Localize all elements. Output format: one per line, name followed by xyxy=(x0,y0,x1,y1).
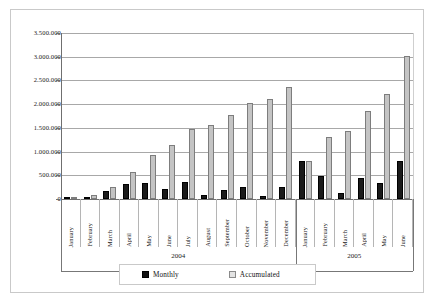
legend-label-accumulated: Accumulated xyxy=(240,271,280,279)
bar-group xyxy=(237,33,257,199)
x-axis-category-cell: February xyxy=(81,199,101,247)
x-axis-category-cell: January xyxy=(61,199,81,247)
x-axis-category-cell: March xyxy=(100,199,120,247)
x-axis-category-cell: November xyxy=(257,199,277,247)
bar-chart: 3.500.0003.000.0002.500.0002.000.0001.50… xyxy=(0,0,436,306)
bar-monthly xyxy=(240,187,246,199)
y-axis-tick-label: 1.000.000 xyxy=(5,148,61,155)
x-axis-tick-label: November xyxy=(262,219,269,247)
bar-accumulated xyxy=(208,125,214,199)
bar-accumulated xyxy=(189,129,195,199)
bar-group xyxy=(296,33,316,199)
legend-item-monthly: Monthly xyxy=(142,271,179,279)
y-axis-tick-label: 0 xyxy=(5,195,61,202)
bar-group xyxy=(198,33,218,199)
x-axis-tick-label: July xyxy=(184,235,191,247)
x-axis-tick-label: September xyxy=(223,218,230,247)
x-axis-category-cell: September xyxy=(217,199,237,247)
x-axis-category-cell: June xyxy=(393,199,413,247)
y-axis-tick-label: 3.000.000 xyxy=(5,53,61,60)
bar-group xyxy=(159,33,179,199)
bar-group xyxy=(120,33,140,199)
x-axis-tick-label: August xyxy=(204,227,211,247)
legend-item-accumulated: Accumulated xyxy=(229,271,280,279)
year-band-start-line xyxy=(61,199,62,271)
year-group-label: 2004 xyxy=(61,252,296,260)
bar-accumulated xyxy=(404,56,410,199)
bar-monthly xyxy=(103,191,109,199)
x-axis-tick-label: February xyxy=(321,222,328,247)
x-axis-tick-label: January xyxy=(301,226,308,247)
x-axis-category-cell: February xyxy=(315,199,335,247)
bar-monthly xyxy=(377,183,383,199)
bar-monthly xyxy=(397,161,403,199)
bar-accumulated xyxy=(267,99,273,199)
x-axis-category-cell: October xyxy=(237,199,257,247)
y-axis-tick-mark xyxy=(56,80,60,81)
year-group-label: 2005 xyxy=(296,252,413,260)
x-axis-tick-label: April xyxy=(125,232,132,247)
x-axis-tick-label: May xyxy=(380,234,387,247)
x-axis-tick-label: December xyxy=(282,219,289,247)
y-axis-line xyxy=(61,33,62,199)
bar-accumulated xyxy=(110,187,116,199)
bar-group xyxy=(61,33,81,199)
legend-label-monthly: Monthly xyxy=(153,271,179,279)
x-axis-tick-label: February xyxy=(86,222,93,247)
bar-monthly xyxy=(358,178,364,199)
bar-accumulated xyxy=(247,103,253,199)
bar-accumulated xyxy=(326,137,332,199)
bar-monthly xyxy=(299,161,305,199)
bar-group xyxy=(81,33,101,199)
x-axis-category-cell: May xyxy=(374,199,394,247)
x-axis-category-cell: January xyxy=(296,199,316,247)
x-axis-category-cell: April xyxy=(120,199,140,247)
y-axis-tick-mark xyxy=(56,175,60,176)
bar-accumulated xyxy=(286,87,292,199)
bar-monthly xyxy=(142,183,148,199)
year-band-end-line xyxy=(413,199,414,271)
chart-legend: Monthly Accumulated xyxy=(119,264,316,285)
year-separator xyxy=(296,199,297,271)
bar-monthly xyxy=(318,176,324,199)
x-axis-tick-label: January xyxy=(67,226,74,247)
x-axis-tick-label: March xyxy=(341,229,348,247)
y-axis-tick-label: 3.500.000 xyxy=(5,29,61,36)
bar-monthly xyxy=(162,189,168,199)
plot-area xyxy=(61,33,413,199)
x-axis-tick-label: June xyxy=(165,234,172,247)
x-axis-category-cell: July xyxy=(178,199,198,247)
y-axis-tick-mark xyxy=(56,57,60,58)
y-axis-tick-mark xyxy=(56,199,60,200)
x-axis-tick-label: May xyxy=(145,234,152,247)
bar-group xyxy=(276,33,296,199)
y-axis-tick-label: 2.500.000 xyxy=(5,76,61,83)
bar-accumulated xyxy=(228,115,234,199)
bar-group xyxy=(257,33,277,199)
bar-monthly xyxy=(221,190,227,199)
y-axis-tick-mark xyxy=(56,152,60,153)
bar-accumulated xyxy=(306,161,312,199)
bar-monthly xyxy=(182,182,188,199)
x-axis-tick-label: March xyxy=(106,229,113,247)
y-axis-tick-label: 500.000 xyxy=(5,171,61,178)
x-axis-tick-label: April xyxy=(360,232,367,247)
bar-accumulated xyxy=(345,131,351,199)
legend-swatch-monthly-icon xyxy=(142,271,149,278)
y-axis-tick-mark xyxy=(56,104,60,105)
y-axis-tick-mark xyxy=(56,33,60,34)
x-axis-category-cell: May xyxy=(139,199,159,247)
bar-accumulated xyxy=(169,145,175,199)
bar-accumulated xyxy=(150,155,156,199)
x-axis-category-cell: August xyxy=(198,199,218,247)
bar-group xyxy=(178,33,198,199)
bar-group xyxy=(315,33,335,199)
bar-accumulated xyxy=(384,94,390,199)
bar-accumulated xyxy=(130,172,136,199)
x-axis-category-cell: December xyxy=(276,199,296,247)
y-axis: 3.500.0003.000.0002.500.0002.000.0001.50… xyxy=(0,0,61,199)
bar-group xyxy=(374,33,394,199)
y-axis-tick-label: 1.500.000 xyxy=(5,124,61,131)
bar-group xyxy=(100,33,120,199)
bar-group xyxy=(139,33,159,199)
